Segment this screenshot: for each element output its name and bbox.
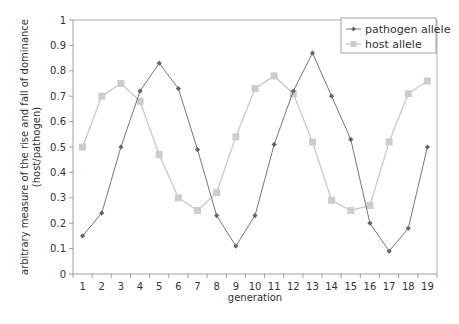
data-point-diamond	[348, 137, 353, 142]
x-tick-label: 11	[268, 281, 281, 292]
data-point-square	[386, 138, 393, 145]
series-line	[83, 76, 428, 211]
y-axis-title-line: arbitrary measure of the rise and fall o…	[19, 19, 30, 275]
x-tick-label: 2	[99, 281, 105, 292]
series-host	[79, 72, 431, 214]
data-point-diamond	[329, 94, 334, 99]
data-point-diamond	[310, 50, 315, 55]
y-axis-title: arbitrary measure of the rise and fall o…	[19, 19, 42, 275]
x-tick-label: 12	[287, 281, 300, 292]
x-tick-label: 6	[175, 281, 181, 292]
x-tick-label: 16	[364, 281, 377, 292]
data-point-diamond	[118, 144, 123, 149]
legend: pathogen allele host allele	[341, 18, 451, 53]
data-point-square	[175, 194, 182, 201]
data-point-square	[252, 85, 259, 92]
data-point-diamond	[214, 213, 219, 218]
plot-frame	[73, 20, 437, 274]
y-tick-label: 0.5	[50, 142, 66, 153]
y-tick-label: 0.1	[50, 243, 66, 254]
y-tick-label: 0.6	[50, 116, 66, 127]
data-point-square	[194, 207, 201, 214]
y-tick-label: 1	[60, 15, 66, 26]
square-marker-icon	[351, 41, 357, 47]
x-tick-label: 9	[233, 281, 239, 292]
data-point-diamond	[272, 142, 277, 147]
data-point-square	[98, 93, 105, 100]
data-point-square	[366, 202, 373, 209]
x-tick-label: 14	[325, 281, 338, 292]
data-point-square	[232, 133, 239, 140]
x-tick-label: 10	[249, 281, 262, 292]
y-tick-label: 0.4	[50, 167, 66, 178]
x-tick-label: 1	[79, 281, 85, 292]
data-point-diamond	[233, 243, 238, 248]
series-layer	[79, 50, 431, 253]
x-tick-label: 15	[344, 281, 357, 292]
data-point-diamond	[425, 144, 430, 149]
x-tick-label: 19	[421, 281, 434, 292]
data-point-square	[79, 144, 86, 151]
y-tick-label: 0	[60, 269, 66, 280]
x-axis: 12345678910111213141516171819	[73, 274, 437, 292]
x-tick-label: 7	[194, 281, 200, 292]
series-pathogen	[80, 50, 430, 253]
x-tick-label: 5	[156, 281, 162, 292]
data-point-square	[213, 189, 220, 196]
x-axis-title: generation	[228, 292, 282, 303]
x-tick-label: 3	[118, 281, 124, 292]
data-point-diamond	[252, 213, 257, 218]
legend-label-host: host allele	[365, 38, 422, 51]
x-tick-label: 18	[402, 281, 415, 292]
y-tick-label: 0.7	[50, 91, 66, 102]
y-axis: 00.10.20.30.40.50.60.70.80.91	[50, 15, 73, 280]
data-point-square	[156, 151, 163, 158]
data-point-square	[117, 80, 124, 87]
data-point-square	[347, 207, 354, 214]
x-tick-label: 13	[306, 281, 319, 292]
data-point-square	[271, 72, 278, 79]
y-tick-label: 0.3	[50, 192, 66, 203]
x-tick-label: 4	[137, 281, 143, 292]
line-chart: 00.10.20.30.40.50.60.70.80.91 1234567891…	[0, 0, 459, 324]
y-tick-label: 0.8	[50, 65, 66, 76]
x-tick-label: 8	[213, 281, 219, 292]
y-tick-label: 0.9	[50, 40, 66, 51]
data-point-square	[405, 90, 412, 97]
y-axis-title-line: (host/pathogen)	[31, 107, 42, 188]
data-point-square	[328, 197, 335, 204]
data-point-diamond	[195, 147, 200, 152]
legend-label-pathogen: pathogen allele	[365, 23, 451, 36]
data-point-square	[309, 138, 316, 145]
x-tick-label: 17	[383, 281, 396, 292]
series-line	[83, 53, 428, 251]
data-point-square	[424, 77, 431, 84]
y-tick-label: 0.2	[50, 218, 66, 229]
